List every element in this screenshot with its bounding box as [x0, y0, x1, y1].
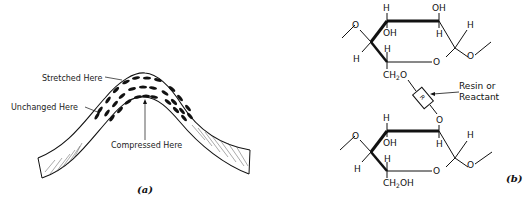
- resin-linker: R Resin or Reactant: [408, 80, 500, 114]
- figure: Stretched Here Unchanged Here Compressed…: [0, 0, 528, 202]
- caption-a: (a): [137, 184, 153, 195]
- oh-group: OH: [383, 28, 397, 38]
- ring-oxygen: O: [433, 166, 440, 176]
- resin-label-line2: Reactant: [459, 92, 500, 102]
- glycosidic-oxygen: O: [352, 131, 359, 141]
- oh-group: OH: [383, 138, 397, 148]
- resin-pointer: [433, 92, 459, 94]
- h-atom: H: [384, 154, 391, 164]
- h-atom: H: [353, 54, 360, 64]
- glycosidic-oxygen: O: [467, 51, 474, 61]
- panel-b-chemical-structure: H OH OH H H H H O O O CH2O R Resin or Re…: [340, 3, 523, 189]
- oh-group: OH: [432, 3, 446, 13]
- glycosidic-oxygen: O: [352, 20, 359, 30]
- h-atom: H: [384, 44, 391, 54]
- h-atom: H: [354, 164, 361, 174]
- ch2oh-group: CH2OH: [383, 178, 414, 189]
- bottom-glucose-ring: O H OH H H H H O O O: [340, 113, 492, 189]
- caption-b: (b): [506, 173, 523, 184]
- ch2o-group: CH2O: [383, 70, 407, 81]
- panel-a-fold-diagram: Stretched Here Unchanged Here Compressed…: [11, 73, 250, 195]
- unchanged-label: Unchanged Here: [11, 103, 78, 112]
- stretched-label: Stretched Here: [42, 74, 102, 83]
- glycosidic-oxygen: O: [467, 160, 474, 170]
- linker-oxygen: O: [436, 115, 443, 125]
- top-glucose-ring: H OH OH H H H H O O O CH2O: [342, 3, 491, 81]
- h-atom: H: [467, 130, 474, 140]
- h-atom: H: [383, 3, 390, 13]
- compressed-label: Compressed Here: [111, 141, 182, 150]
- ring-oxygen: O: [433, 57, 440, 67]
- h-atom: H: [436, 29, 443, 39]
- h-atom: H: [383, 113, 390, 123]
- resin-label-line1: Resin or: [459, 81, 496, 91]
- stretched-leader: [105, 77, 122, 80]
- h-atom: H: [467, 20, 474, 30]
- h-atom: H: [436, 139, 443, 149]
